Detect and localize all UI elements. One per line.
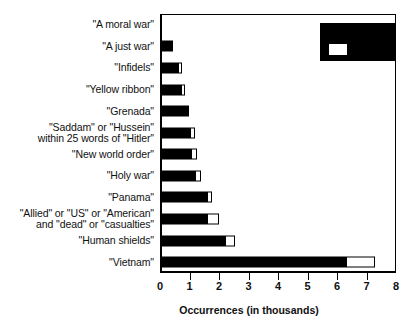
stacked-bar: [160, 235, 235, 246]
bar-segment-dark: [160, 62, 178, 73]
x-tick: [190, 273, 191, 280]
category-label: "Panama": [0, 192, 158, 203]
bar-segment-dark: [160, 192, 207, 203]
chart-row: "Vietnam": [0, 251, 420, 273]
stacked-bar: [160, 41, 173, 52]
x-axis: 012345678: [160, 273, 396, 303]
bar-segment-dark: [160, 214, 207, 225]
x-tick: [219, 273, 220, 280]
category-label: "A just war": [0, 41, 158, 52]
bar-segment-light: [225, 235, 235, 246]
stacked-bar: [160, 127, 195, 138]
category-label: "A moral war": [0, 19, 158, 30]
x-tick-label: 7: [363, 280, 369, 292]
chart-row: "New world order": [0, 144, 420, 166]
stacked-bar: [160, 149, 197, 160]
chart-row: "Human shields": [0, 230, 420, 252]
x-tick-label: 5: [304, 280, 310, 292]
x-tick-label: 3: [245, 280, 251, 292]
chart-row: "Allied" or "US" or "American" and "dead…: [0, 208, 420, 230]
bar-segment-light: [195, 170, 201, 181]
bar-segment-light: [181, 84, 185, 95]
bar-segment-dark: [160, 235, 225, 246]
x-tick: [249, 273, 250, 280]
x-tick-label: 2: [216, 280, 222, 292]
x-tick-label: 8: [393, 280, 399, 292]
category-label: "Infidels": [0, 62, 158, 73]
x-tick: [278, 273, 279, 280]
chart-row: "Saddam" or "Hussein" within 25 words of…: [0, 122, 420, 144]
stacked-bar: [160, 214, 219, 225]
chart-row: "Panama": [0, 187, 420, 209]
bar-segment-dark: [160, 127, 190, 138]
bar-segment-dark: [160, 41, 173, 52]
bar-track: [158, 122, 420, 144]
x-tick-label: 1: [186, 280, 192, 292]
stacked-bar: [160, 257, 375, 268]
stacked-bar: [160, 106, 189, 117]
bar-segment-light: [190, 127, 196, 138]
category-label: "Saddam" or "Hussein" within 25 words of…: [0, 122, 158, 144]
bar-segment-light: [178, 62, 182, 73]
category-label: "Vietnam": [0, 257, 158, 268]
stacked-bar: [160, 62, 182, 73]
bar-segment-light: [346, 257, 376, 268]
x-tick: [337, 273, 338, 280]
bar-track: [158, 208, 420, 230]
bar-segment-light: [191, 149, 197, 160]
bar-track: [158, 165, 420, 187]
chart-row: "Yellow ribbon": [0, 79, 420, 101]
legend-swatch-light: [329, 44, 347, 55]
chart-row: "Holy war": [0, 165, 420, 187]
bar-track: [158, 187, 420, 209]
x-tick-label: 6: [334, 280, 340, 292]
x-tick: [367, 273, 368, 280]
legend: [320, 23, 396, 61]
category-label: "Yellow ribbon": [0, 84, 158, 95]
stacked-bar: [160, 84, 185, 95]
bar-segment-light: [207, 192, 211, 203]
bar-segment-light: [187, 106, 190, 117]
bar-segment-dark: [160, 170, 195, 181]
category-label: "Grenada": [0, 106, 158, 117]
bar-segment-dark: [160, 84, 181, 95]
category-label: "Allied" or "US" or "American" and "dead…: [0, 208, 158, 230]
bar-track: [158, 79, 420, 101]
bar-track: [158, 251, 420, 273]
category-label: "Holy war": [0, 170, 158, 181]
chart-row: "Grenada": [0, 100, 420, 122]
x-axis-title-text: Occurrences (in thousands): [179, 304, 318, 316]
stacked-bar: [160, 192, 212, 203]
x-tick: [308, 273, 309, 280]
bar-chart: "A moral war""A just war""Infidels""Yell…: [0, 0, 420, 327]
x-axis-title: Occurrences (in thousands): [0, 304, 420, 316]
x-tick-label: 0: [157, 280, 163, 292]
category-label: "Human shields": [0, 235, 158, 246]
bar-segment-dark: [160, 19, 161, 30]
stacked-bar: [160, 19, 161, 30]
bar-segment-light: [207, 214, 219, 225]
stacked-bar: [160, 170, 201, 181]
bar-segment-dark: [160, 149, 191, 160]
x-tick-label: 4: [275, 280, 281, 292]
bar-track: [158, 230, 420, 252]
bar-track: [158, 144, 420, 166]
bar-track: [158, 100, 420, 122]
bar-segment-dark: [160, 106, 187, 117]
category-label: "New world order": [0, 149, 158, 160]
bar-segment-dark: [160, 257, 346, 268]
